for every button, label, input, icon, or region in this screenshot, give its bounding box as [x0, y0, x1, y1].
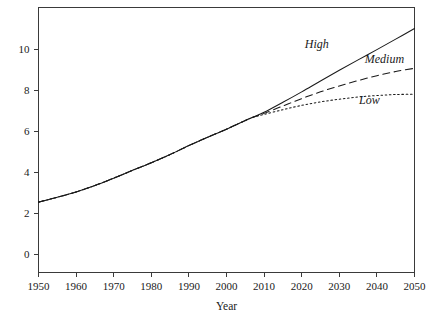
y-axis-tick-labels: 0246810	[19, 43, 31, 260]
y-tick-label-4: 4	[24, 166, 30, 178]
series-line-medium	[39, 68, 415, 202]
population-projection-chart: 0246810 19501960197019801990200020102020…	[0, 0, 430, 317]
x-axis-tick-labels: 1950196019701980199020002010202020302040…	[28, 280, 427, 292]
y-tick-label-6: 6	[24, 125, 30, 137]
x-tick-label-2030: 2030	[328, 280, 351, 292]
series-lines	[39, 29, 415, 203]
x-tick-label-1990: 1990	[178, 280, 201, 292]
series-line-high	[39, 29, 415, 203]
chart-canvas: 0246810 19501960197019801990200020102020…	[0, 0, 430, 317]
y-tick-label-10: 10	[19, 43, 31, 55]
series-annotations: HighMediumLow	[304, 37, 405, 107]
tick-marks	[34, 49, 415, 277]
series-line-low	[39, 94, 415, 202]
y-tick-label-0: 0	[24, 248, 30, 260]
x-tick-label-2000: 2000	[216, 280, 239, 292]
x-tick-label-2040: 2040	[366, 280, 389, 292]
x-tick-label-1980: 1980	[140, 280, 163, 292]
plot-frame	[39, 8, 415, 273]
x-tick-label-2020: 2020	[291, 280, 314, 292]
series-label-medium: Medium	[364, 52, 405, 66]
y-tick-label-2: 2	[24, 207, 30, 219]
series-label-high: High	[304, 37, 329, 51]
x-tick-label-1950: 1950	[28, 280, 51, 292]
axes	[39, 8, 415, 273]
x-tick-label-1970: 1970	[103, 280, 126, 292]
series-label-low: Low	[358, 93, 380, 107]
x-tick-label-1960: 1960	[65, 280, 88, 292]
x-axis-title: Year	[216, 300, 237, 312]
y-tick-label-8: 8	[24, 84, 30, 96]
x-tick-label-2050: 2050	[404, 280, 427, 292]
x-tick-label-2010: 2010	[253, 280, 276, 292]
